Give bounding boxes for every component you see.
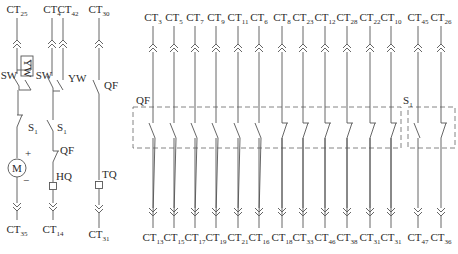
connector-plug-icon — [170, 44, 178, 52]
terminal-label: CT31 — [88, 228, 110, 243]
connector-plug-icon — [299, 44, 307, 52]
yw-label: YW — [22, 59, 34, 78]
connector-socket-icon — [13, 203, 21, 211]
qf-group-label: QF — [136, 94, 150, 106]
terminal-label: CT21 — [227, 231, 249, 246]
contact-no-icon — [191, 123, 197, 138]
connector-socket-icon — [95, 205, 103, 213]
tq-label: TQ — [102, 168, 117, 180]
contact-no-icon — [414, 123, 420, 138]
terminal-label: CT25 — [6, 3, 28, 18]
terminal-label: CT15 — [163, 231, 185, 246]
terminal-label: CT19 — [205, 231, 227, 246]
connector-plug-icon — [437, 44, 445, 52]
connector-plug-icon — [48, 40, 56, 48]
terminal-label: CT31 — [359, 231, 381, 246]
contact-nc-icon — [370, 123, 376, 138]
qf-label: QF — [60, 144, 74, 156]
contact-no-icon — [234, 123, 240, 138]
connector-plug-icon — [343, 44, 351, 52]
contact-nc-icon — [17, 115, 23, 127]
contact-nc-icon — [391, 123, 397, 138]
connector-plug-icon — [321, 44, 329, 52]
contact-nc-icon — [303, 123, 309, 138]
s1-label: S1 — [28, 121, 38, 136]
contact-no-icon — [93, 80, 99, 94]
terminal-label: CT10 — [380, 11, 402, 26]
terminal-label: CT17 — [184, 231, 206, 246]
contact-no-icon — [57, 80, 63, 90]
terminal-label: CT13 — [142, 231, 164, 246]
terminal-label: CT18 — [271, 231, 293, 246]
terminal-label: CT23 — [292, 11, 314, 26]
hq-label: HQ — [56, 170, 72, 182]
contact-no-icon — [47, 120, 53, 131]
connector-plug-icon — [234, 44, 242, 52]
coil-icon — [96, 182, 103, 189]
s1-group-box — [408, 107, 455, 148]
contact-nc-icon — [347, 123, 353, 138]
terminal-label: CT47 — [407, 231, 429, 246]
contact-no-icon — [255, 123, 261, 138]
terminal-label: CT36 — [430, 231, 452, 246]
circuit-diagram: CT25SWYWS1M+−CT35CT4CT42SWYWS1QFHQCT14CT… — [0, 0, 458, 254]
terminal-label: CT11 — [228, 11, 249, 26]
contact-no-icon — [25, 80, 31, 90]
terminal-label: CT14 — [42, 223, 64, 238]
connector-socket-icon — [414, 208, 422, 216]
contact-no-icon — [170, 123, 176, 138]
contact-nc-icon — [282, 123, 288, 138]
terminal-label: CT26 — [430, 11, 452, 26]
terminal-label: CT12 — [314, 11, 336, 26]
terminal-label: CT22 — [359, 11, 381, 26]
terminal-label: CT7 — [186, 11, 204, 26]
motor-label: M — [12, 162, 22, 174]
terminal-label: CT45 — [407, 11, 429, 26]
connector-plug-icon — [255, 44, 263, 52]
terminal-label: CT16 — [248, 231, 270, 246]
coil-icon — [50, 183, 57, 190]
contact-no-icon — [149, 123, 155, 138]
terminal-label: CT9 — [207, 11, 225, 26]
terminal-label: CT28 — [336, 11, 358, 26]
terminal-label: CT3 — [144, 11, 162, 26]
terminal-label: CT8 — [273, 11, 291, 26]
plus-sign: + — [25, 147, 31, 159]
connector-plug-icon — [414, 44, 422, 52]
terminal-label: CT38 — [336, 231, 358, 246]
connector-socket-icon — [437, 208, 445, 216]
terminal-label: CT46 — [314, 231, 336, 246]
yw-label: YW — [68, 72, 87, 84]
connector-plug-icon — [59, 40, 67, 48]
connector-plug-icon — [13, 40, 21, 48]
terminal-label: CT5 — [165, 11, 183, 26]
qf-group-box — [133, 107, 401, 148]
connector-plug-icon — [387, 44, 395, 52]
terminal-label: CT31 — [380, 231, 402, 246]
terminal-label: CT6 — [250, 11, 268, 26]
contact-nc-icon — [441, 123, 447, 138]
connector-socket-icon — [49, 203, 57, 211]
terminal-label: CT30 — [88, 3, 110, 18]
terminal-label: CT35 — [6, 223, 28, 238]
connector-plug-icon — [149, 44, 157, 52]
contact-nc-icon — [53, 151, 59, 162]
qf-label: QF — [104, 79, 118, 91]
connector-plug-icon — [366, 44, 374, 52]
contact-nc-icon — [325, 123, 331, 138]
connector-plug-icon — [212, 44, 220, 52]
terminal-label: CT33 — [292, 231, 314, 246]
connector-plug-icon — [95, 40, 103, 48]
connector-plug-icon — [278, 44, 286, 52]
contact-no-icon — [212, 123, 218, 138]
connector-plug-icon — [191, 44, 199, 52]
sw-label: SW — [36, 69, 53, 81]
s1-label: S1 — [57, 121, 67, 136]
minus-sign: − — [23, 174, 29, 186]
